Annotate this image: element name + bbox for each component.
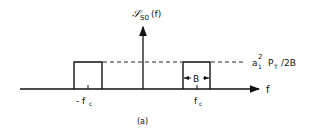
svg-text:a: a (252, 58, 258, 68)
figure-caption: (a) (137, 117, 148, 126)
svg-text:/2B: /2B (281, 58, 296, 68)
svg-text:- f: - f (76, 96, 86, 106)
psd-axis-label: 𝒮 S0 (f) (132, 8, 161, 22)
svg-text:c: c (89, 100, 92, 107)
svg-text:T: T (273, 63, 278, 70)
svg-text:S0: S0 (140, 14, 149, 22)
positive-band: B (183, 62, 210, 89)
frequency-axis-label: f (266, 84, 270, 95)
svg-text:(f): (f) (151, 9, 161, 19)
bandwidth-label: B (193, 74, 199, 84)
negative-band (74, 62, 102, 89)
power-spectral-density-diagram: f 𝒮 S0 (f) B a 1 2 P T /2B - f c f c (0, 0, 316, 140)
svg-text:c: c (199, 100, 202, 107)
svg-text:f: f (194, 96, 198, 106)
svg-text:2: 2 (258, 53, 262, 61)
pos-fc-label: f c (194, 96, 202, 107)
svg-text:1: 1 (258, 63, 262, 70)
neg-fc-label: - f c (76, 96, 92, 107)
level-label: a 1 2 P T /2B (252, 53, 296, 70)
